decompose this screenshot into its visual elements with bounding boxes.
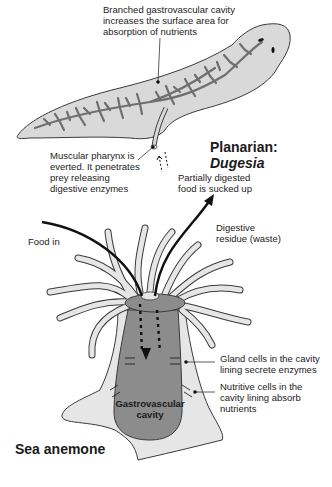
label-line: Digestive: [216, 222, 281, 233]
label-line: nutrients: [220, 403, 302, 414]
pharynx-label: Muscular pharynx is everted. It penetrat…: [50, 150, 140, 194]
nutritive-cells-label: Nutritive cells in the cavity lining abs…: [220, 381, 302, 414]
label-line: Nutritive cells in the: [220, 381, 302, 392]
digestive-residue-label: Digestive residue (waste): [216, 222, 281, 244]
label-line: cavity: [112, 409, 188, 420]
label-line: food is sucked up: [178, 183, 252, 194]
food-sucked-label: Partially digested food is sucked up: [178, 172, 252, 194]
label-line: Gland cells in the cavity: [220, 353, 320, 364]
label-line: lining secrete enzymes: [220, 364, 320, 375]
label-line: Partially digested: [178, 172, 252, 183]
planarian-title: Planarian: Dugesia: [210, 139, 332, 171]
label-line: residue (waste): [216, 233, 281, 244]
gland-cells-label: Gland cells in the cavity lining secrete…: [220, 353, 320, 375]
label-line: Branched gastrovascular cavity: [103, 4, 235, 15]
label-line: absorption of nutrients: [103, 26, 235, 37]
title-genus: Dugesia: [210, 155, 264, 171]
label-line: cavity lining absorb: [220, 392, 302, 403]
title-prefix: Planarian:: [210, 139, 278, 155]
label-line: everted. It penetrates: [50, 161, 140, 172]
food-in-label: Food in: [28, 236, 60, 247]
cavity-label: Gastrovascular cavity: [112, 398, 188, 420]
label-line: Gastrovascular: [112, 398, 188, 409]
anemone-title: Sea anemone: [15, 441, 105, 457]
label-line: digestive enzymes: [50, 183, 140, 194]
label-line: Muscular pharynx is: [50, 150, 140, 161]
branched-cavity-label: Branched gastrovascular cavity increases…: [103, 4, 235, 37]
planarian-eye: [272, 47, 275, 53]
label-line: increases the surface area for: [103, 15, 235, 26]
anemone-cavity: [114, 310, 182, 440]
label-line: prey releasing: [50, 172, 140, 183]
